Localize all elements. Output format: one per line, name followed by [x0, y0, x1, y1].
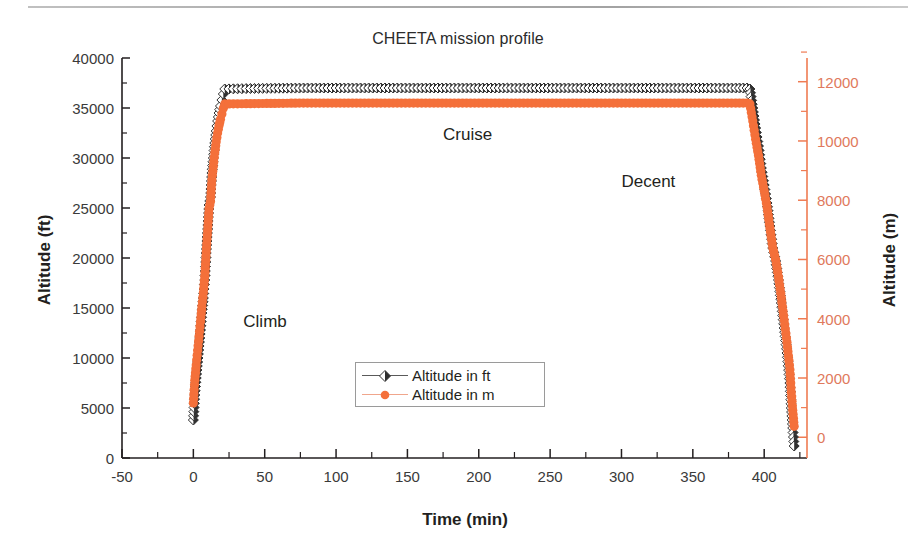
y-axis-right-tick-label: 6000: [817, 251, 850, 268]
legend-entry-altitude-ft: Altitude in ft: [362, 366, 538, 385]
x-axis-tick-label: -50: [111, 468, 133, 485]
figure-page: CHEETA mission profile Altitude (ft) Alt…: [0, 0, 916, 552]
y-axis-right-tick-label: 12000: [817, 73, 859, 90]
y-axis-left-tick-label: 0: [52, 450, 114, 467]
diamond-arrow-marker: [378, 369, 392, 383]
legend-sample-m: [362, 388, 408, 402]
y-axis-left-tick-label: 40000: [52, 50, 114, 67]
legend-label-m: Altitude in m: [408, 386, 495, 403]
chart-legend: Altitude in ft Altitude in m: [355, 362, 545, 407]
annotation-cruise: Cruise: [443, 125, 492, 145]
y-axis-left-tick-label: 35000: [52, 100, 114, 117]
y-axis-left-ticks: [122, 58, 130, 458]
x-axis-ticks: [122, 449, 800, 458]
y-axis-right-ticks: [798, 52, 807, 437]
circle-marker: [378, 388, 392, 402]
x-axis-tick-label: 250: [538, 468, 563, 485]
legend-sample-ft: [362, 369, 408, 383]
y-axis-left-tick-label: 10000: [52, 350, 114, 367]
x-axis-tick-label: 400: [752, 468, 777, 485]
y-axis-left-tick-label: 20000: [52, 250, 114, 267]
annotation-climb: Climb: [243, 312, 286, 332]
annotation-decent: Decent: [621, 172, 675, 192]
x-axis-tick-label: 0: [189, 468, 197, 485]
x-axis-tick-label: 150: [395, 468, 420, 485]
x-axis-tick-label: 100: [324, 468, 349, 485]
y-axis-right-tick-label: 10000: [817, 132, 859, 149]
y-axis-right-tick-label: 0: [817, 429, 825, 446]
y-axis-right-tick-label: 4000: [817, 310, 850, 327]
y-axis-left-tick-label: 25000: [52, 200, 114, 217]
chart-figure: CHEETA mission profile Altitude (ft) Alt…: [0, 0, 916, 552]
plot-canvas: [0, 0, 916, 552]
y-axis-right-tick-label: 8000: [817, 192, 850, 209]
y-axis-left-tick-label: 30000: [52, 150, 114, 167]
y-axis-right-tick-label: 2000: [817, 370, 850, 387]
legend-label-ft: Altitude in ft: [408, 367, 490, 384]
y-axis-left-tick-label: 5000: [52, 400, 114, 417]
x-axis-tick-label: 350: [680, 468, 705, 485]
y-axis-left-tick-label: 15000: [52, 300, 114, 317]
x-axis-tick-label: 50: [256, 468, 273, 485]
legend-entry-altitude-m: Altitude in m: [362, 385, 538, 404]
x-axis-tick-label: 200: [466, 468, 491, 485]
x-axis-tick-label: 300: [609, 468, 634, 485]
